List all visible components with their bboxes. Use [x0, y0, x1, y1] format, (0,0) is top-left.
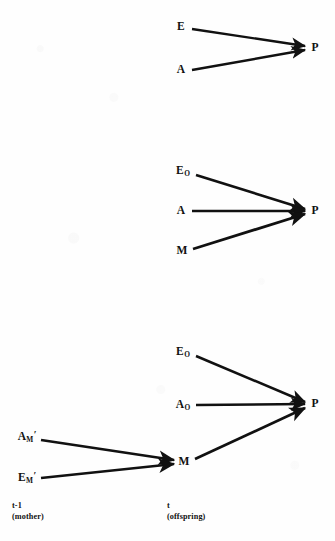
panel-2-edges: [192, 175, 305, 249]
axis-caption-left-line1: t-1: [12, 500, 44, 511]
axis-caption-left: t-1 (mother): [12, 500, 44, 522]
axis-caption-right: t (offspring): [167, 500, 205, 522]
edge-E-to-P: [192, 29, 305, 46]
panel-1-edges: [192, 29, 305, 70]
edge-A-to-P: [192, 50, 305, 70]
node-label-P: P: [311, 42, 318, 54]
axis-caption-right-line1: t: [167, 500, 205, 511]
edge-M-to-P: [193, 214, 305, 249]
node-label-P: P: [311, 205, 318, 217]
edge-EM-to-M: [41, 464, 174, 478]
node-label-M: M: [178, 456, 189, 468]
node-label-E-mother: EM′: [18, 472, 36, 484]
node-label-A: A: [177, 64, 186, 76]
edge-EO-to-P: [196, 356, 305, 402]
path-arrows-layer: [0, 0, 335, 541]
node-label-E-offspring: EO: [176, 165, 190, 177]
node-label-E: E: [177, 21, 185, 33]
node-label-A: A: [177, 205, 186, 217]
node-label-E-offspring: EO: [176, 346, 190, 358]
edge-AO-to-P: [196, 404, 305, 405]
edge-AM-to-M: [41, 440, 174, 460]
node-label-A-offspring: AO: [176, 399, 190, 411]
node-label-M: M: [176, 245, 187, 257]
node-label-P: P: [311, 398, 318, 410]
figure-canvas: E A P EO A M P EO AO AM′ EM′ M P t-1 (mo…: [0, 0, 335, 541]
edge-M-to-P: [195, 408, 305, 459]
panel-3-edges: [41, 356, 305, 478]
axis-caption-left-line2: (mother): [12, 511, 44, 522]
node-label-A-mother: AM′: [18, 431, 37, 443]
edge-EO-to-P: [196, 175, 305, 209]
axis-caption-right-line2: (offspring): [167, 511, 205, 522]
